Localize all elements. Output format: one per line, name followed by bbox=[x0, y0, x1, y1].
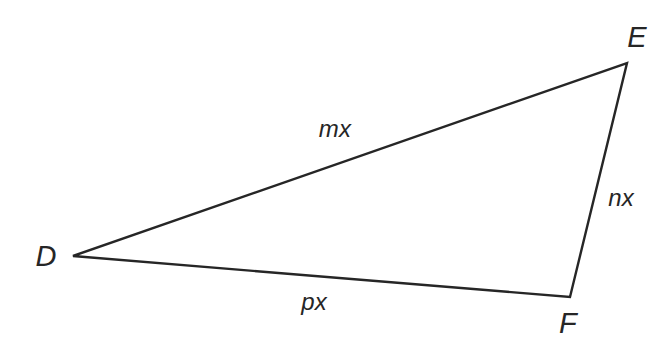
vertex-label-e: E bbox=[627, 23, 647, 52]
side-label-de: mx bbox=[319, 117, 351, 141]
vertex-label-f: F bbox=[559, 309, 577, 338]
triangle-shape bbox=[0, 0, 669, 344]
vertex-label-d: D bbox=[35, 242, 56, 271]
triangle-outline bbox=[73, 63, 627, 297]
side-label-ef: nx bbox=[608, 186, 634, 210]
triangle-diagram: D E F mx nx px bbox=[0, 0, 669, 344]
side-label-df: px bbox=[301, 290, 327, 314]
